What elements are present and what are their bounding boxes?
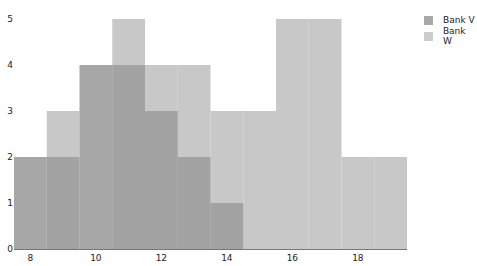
x-tick-label: 8 (28, 253, 34, 263)
x-tick-label: 14 (221, 253, 233, 263)
histogram-bar (178, 157, 211, 249)
histogram-bar (243, 111, 276, 249)
x-tick-label: 12 (156, 253, 167, 263)
x-tick-label: 10 (90, 253, 102, 263)
y-tick-label: 0 (7, 244, 13, 254)
histogram-bar (80, 65, 113, 249)
histogram-bar (14, 157, 47, 249)
histogram-bar (47, 157, 80, 249)
legend-label: Bank W (443, 26, 477, 46)
x-tick-label: 16 (287, 253, 299, 263)
legend-label: Bank V (443, 15, 475, 25)
histogram-bar (374, 157, 407, 249)
y-tick-label: 1 (7, 198, 13, 208)
histogram-bar (309, 19, 342, 249)
legend: Bank V Bank W (424, 12, 477, 44)
y-tick-label: 5 (7, 14, 13, 24)
y-tick-label: 4 (7, 60, 13, 70)
y-tick-label: 3 (7, 106, 13, 116)
histogram-bar (276, 19, 309, 249)
histogram-chart: 81012141618012345 (0, 0, 477, 266)
histogram-bar (342, 157, 375, 249)
legend-item-bank-w[interactable]: Bank W (424, 28, 477, 44)
histogram-bar (211, 203, 244, 249)
histogram-bar (145, 111, 178, 249)
legend-swatch-bank-w (424, 32, 433, 41)
histogram-bar (112, 65, 145, 249)
x-tick-label: 18 (352, 253, 364, 263)
y-tick-label: 2 (7, 152, 13, 162)
legend-swatch-bank-v (424, 16, 433, 25)
